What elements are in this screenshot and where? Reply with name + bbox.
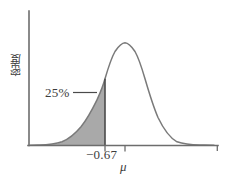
x-axis-title-mu: μ bbox=[120, 159, 127, 175]
y-axis-title: 密度 bbox=[8, 42, 26, 88]
shaded-area-percent-label: 25% bbox=[45, 85, 69, 101]
normal-distribution-figure: 密度 25% −0.67 μ bbox=[0, 0, 228, 181]
x-tick-label-cut-point: −0.67 bbox=[86, 147, 117, 163]
